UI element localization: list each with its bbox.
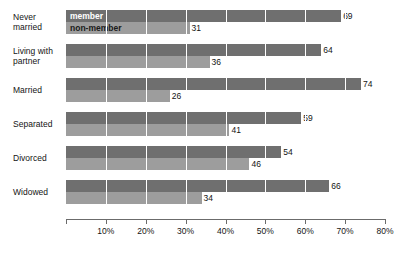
legend-item-member: member: [70, 12, 103, 21]
bar-non-member[interactable]: [66, 124, 229, 136]
category-label-line: Living with: [13, 46, 65, 57]
axis-tick: [66, 219, 67, 224]
axis-tick-label: 30%: [177, 226, 194, 236]
gridline: [106, 10, 107, 219]
bar-value-label: 54: [281, 148, 292, 157]
category-label: Living withpartner: [13, 46, 65, 67]
bar-value-label: 41: [229, 126, 240, 135]
axis-tick-label: 40%: [217, 226, 234, 236]
bar-non-member[interactable]: [66, 56, 210, 68]
bar-value-label: 59: [301, 114, 312, 123]
bar-value-label: 64: [321, 46, 332, 55]
axis-tick-label: 10%: [97, 226, 114, 236]
bar-member[interactable]: [66, 78, 361, 90]
category-label-line: Separated: [13, 119, 65, 130]
bar-non-member[interactable]: [66, 90, 170, 102]
axis-tick: [226, 219, 227, 224]
category-label-line: Divorced: [13, 153, 65, 164]
bar-value-label: 74: [361, 80, 372, 89]
category-label-line: Widowed: [13, 187, 65, 198]
category-label-line: Married: [13, 85, 65, 96]
axis-tick-label: 80%: [376, 226, 393, 236]
category-label: Married: [13, 85, 65, 96]
axis-tick: [265, 219, 266, 224]
bar-value-label: 69: [341, 12, 352, 21]
axis-tick: [305, 219, 306, 224]
bar-value-label: 31: [190, 24, 201, 33]
axis-tick: [345, 219, 346, 224]
category-label-line: married: [13, 22, 65, 33]
bar-member[interactable]: [66, 146, 281, 158]
gridline: [226, 10, 227, 219]
bar-member[interactable]: [66, 10, 341, 22]
axis-tick: [385, 219, 386, 224]
category-label: Divorced: [13, 153, 65, 164]
gridline: [305, 10, 306, 219]
axis-tick: [146, 219, 147, 224]
axis-tick-label: 20%: [137, 226, 154, 236]
category-label: Nevermarried: [13, 12, 65, 33]
axis-tick-label: 50%: [257, 226, 274, 236]
category-label: Separated: [13, 119, 65, 130]
bar-value-label: 34: [202, 194, 213, 203]
axis-tick-label: 70%: [337, 226, 354, 236]
category-label-line: partner: [13, 56, 65, 67]
axis-tick: [106, 219, 107, 224]
category-label-line: Never: [13, 12, 65, 23]
legend-item-non-member: non-member: [70, 24, 121, 33]
bar-non-member[interactable]: [66, 192, 202, 204]
bar-value-label: 46: [249, 160, 260, 169]
gridline: [265, 10, 266, 219]
category-label: Widowed: [13, 187, 65, 198]
bar-value-label: 66: [329, 182, 340, 191]
axis-tick-label: 60%: [297, 226, 314, 236]
value-axis: 10%20%30%40%50%60%70%80%: [66, 219, 385, 220]
plot-area: 69member31non-member64367426594154466634: [66, 10, 385, 219]
bar-chart: NevermarriedLiving withpartnerMarriedSep…: [0, 0, 396, 258]
gridline: [146, 10, 147, 219]
bar-value-label: 36: [210, 58, 221, 67]
gridline: [186, 10, 187, 219]
bar-member[interactable]: [66, 44, 321, 56]
bar-non-member[interactable]: [66, 158, 249, 170]
gridline: [345, 10, 346, 219]
gridline: [385, 10, 386, 219]
bar-value-label: 26: [170, 92, 181, 101]
axis-tick: [186, 219, 187, 224]
